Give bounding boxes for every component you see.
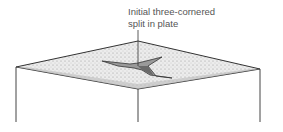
annotation-line-2: split in plate (128, 18, 215, 30)
annotation-line-1: Initial three-cornered (128, 6, 215, 18)
annotation-label: Initial three-cornered split in plate (128, 6, 215, 30)
